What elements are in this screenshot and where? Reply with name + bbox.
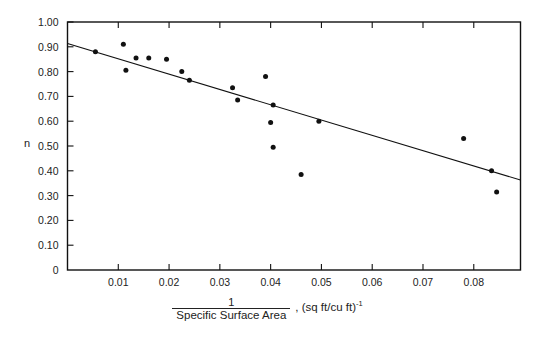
data-point — [146, 55, 151, 60]
data-point — [461, 136, 466, 141]
data-point — [187, 78, 192, 83]
y-tick-label: 0.60 — [38, 115, 59, 127]
x-axis-label: 1 Specific Surface Area , (sq ft/cu ft)-… — [0, 296, 535, 323]
data-point — [271, 103, 276, 108]
figure-scatter-plot: n 0.010.020.030.040.050.060.070.0800.100… — [0, 0, 535, 341]
data-point — [164, 57, 169, 62]
data-point — [93, 49, 98, 54]
y-tick-label: 0.80 — [38, 66, 59, 78]
y-tick-label: 0.90 — [38, 41, 59, 53]
x-tick-label: 0.01 — [108, 276, 129, 288]
regression-line — [68, 44, 521, 180]
data-point — [489, 168, 494, 173]
data-point — [271, 145, 276, 150]
plot-canvas: 0.010.020.030.040.050.060.070.0800.100.2… — [0, 0, 535, 341]
y-tick-label: 0.50 — [38, 140, 59, 152]
data-point — [123, 68, 128, 73]
data-point — [299, 172, 304, 177]
data-point — [134, 55, 139, 60]
x-axis-units: , (sq ft/cu ft)-1 — [290, 299, 362, 313]
x-axis-denominator: Specific Surface Area — [172, 308, 290, 323]
y-tick-label: 0.30 — [38, 190, 59, 202]
data-point — [179, 69, 184, 74]
x-axis-units-text: , (sq ft/cu ft) — [295, 300, 356, 312]
x-tick-label: 0.02 — [159, 276, 180, 288]
x-tick-label: 0.03 — [210, 276, 231, 288]
y-tick-label: 0.20 — [38, 214, 59, 226]
data-point — [316, 119, 321, 124]
x-tick-label: 0.04 — [260, 276, 281, 288]
x-tick-label: 0.06 — [362, 276, 383, 288]
y-tick-label: 1.00 — [38, 16, 59, 28]
data-point — [235, 98, 240, 103]
x-axis-numerator: 1 — [172, 296, 290, 308]
x-tick-label: 0.05 — [311, 276, 332, 288]
data-point — [494, 189, 499, 194]
data-point — [263, 74, 268, 79]
data-point — [230, 85, 235, 90]
x-tick-label: 0.08 — [464, 276, 485, 288]
x-axis-units-exponent: -1 — [356, 299, 363, 308]
y-tick-label: 0 — [53, 264, 59, 276]
y-tick-label: 0.10 — [38, 239, 59, 251]
y-tick-label: 0.70 — [38, 90, 59, 102]
data-point — [268, 120, 273, 125]
x-axis-fraction: 1 Specific Surface Area — [172, 296, 290, 323]
data-point — [121, 42, 126, 47]
x-tick-label: 0.07 — [413, 276, 434, 288]
y-tick-label: 0.40 — [38, 165, 59, 177]
